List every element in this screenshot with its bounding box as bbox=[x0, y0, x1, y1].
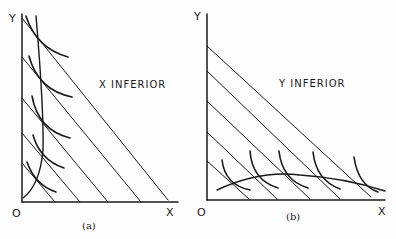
diagram-drawing bbox=[0, 0, 396, 239]
panel-a-caption: (a) bbox=[82, 220, 96, 231]
panel-a-origin-label: O bbox=[12, 207, 21, 220]
panel-a-title: X INFERIOR bbox=[99, 79, 166, 90]
panel-b-indifference-curves bbox=[222, 151, 378, 192]
panel-b-y-axis-label: Y bbox=[194, 10, 201, 23]
panel-a-y-axis-label: Y bbox=[9, 12, 16, 25]
panel-a-icc bbox=[23, 16, 43, 198]
panel-a-budget-lines bbox=[22, 18, 168, 202]
panel-b-caption: (b) bbox=[286, 211, 300, 222]
diagram-canvas: Y O X X INFERIOR (a) Y O X Y INFERIOR (b… bbox=[0, 0, 396, 239]
panel-b-origin-label: O bbox=[197, 206, 206, 219]
panel-a-x-axis-label: X bbox=[166, 206, 174, 219]
panel-a-axes bbox=[22, 14, 178, 202]
panel-b-x-axis-label: X bbox=[378, 205, 386, 218]
panel-b-title: Y INFERIOR bbox=[279, 78, 346, 89]
